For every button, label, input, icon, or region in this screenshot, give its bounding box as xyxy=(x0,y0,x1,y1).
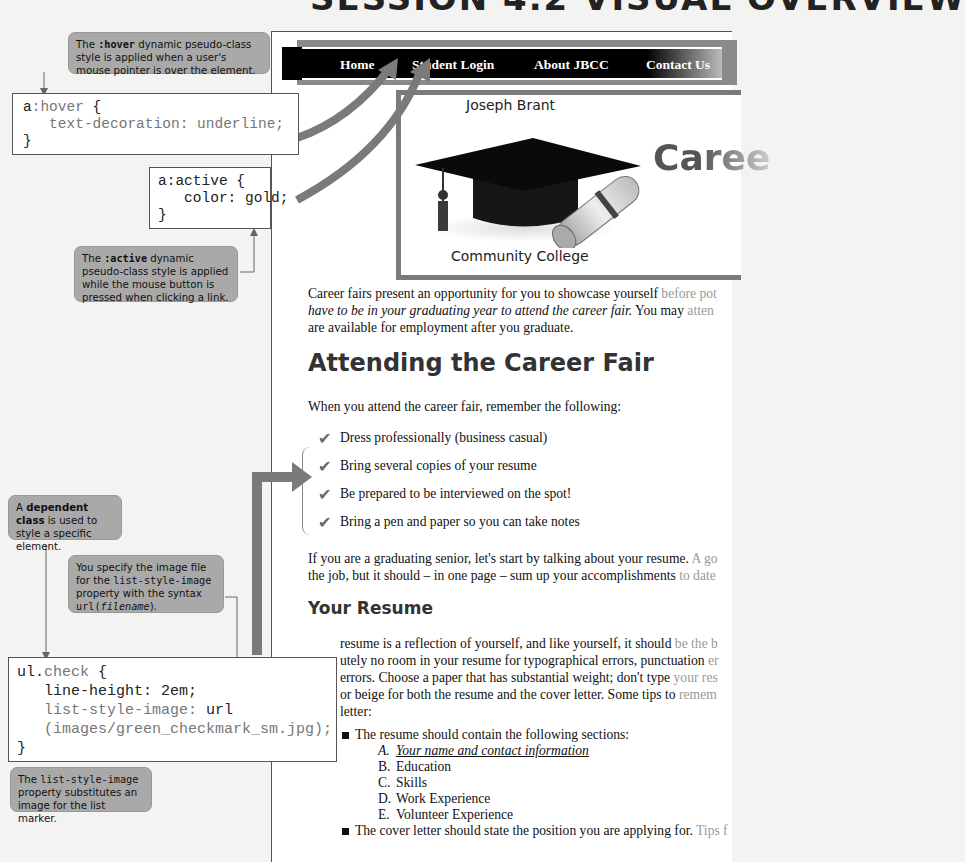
checkmark-icon: ✔ xyxy=(318,429,340,448)
bullet-item: The resume should contain the following … xyxy=(340,727,760,823)
sub-item: D.Work Experience xyxy=(378,791,760,807)
callout-dependent-class: A dependent class is used to style a spe… xyxy=(8,495,122,540)
checkmark-icon: ✔ xyxy=(318,457,340,476)
list-brace xyxy=(302,447,311,535)
heading-resume: Your Resume xyxy=(308,598,728,618)
remember-text: When you attend the career fair, remembe… xyxy=(308,398,728,415)
heading-attending: Attending the Career Fair xyxy=(308,349,728,377)
banner: Joseph Brant Community College Caree xyxy=(396,90,741,280)
nav-link-about[interactable]: About JBCC xyxy=(534,57,609,73)
nav-bar-inner: Home Student Login About JBCC Contact Us xyxy=(302,47,722,80)
senior-paragraph: If you are a graduating senior, let's st… xyxy=(308,550,728,584)
check-list: ✔Dress professionally (business casual) … xyxy=(312,424,732,536)
sub-item: E.Volunteer Experience xyxy=(378,807,760,823)
page-title: SESSION 4.2 VISUAL OVERVIEW xyxy=(310,0,965,18)
graduation-cap-icon xyxy=(413,123,643,248)
nav-link-contact[interactable]: Contact Us xyxy=(646,57,710,73)
banner-title: Caree xyxy=(653,137,770,178)
check-list-item: ✔Dress professionally (business casual) xyxy=(312,424,732,452)
check-list-item: ✔Bring several copies of your resume xyxy=(312,452,732,480)
code-block-hover: a:hover { text-decoration: underline; } xyxy=(12,93,299,155)
callout-url-syntax: You specify the image file for the list-… xyxy=(68,555,224,613)
check-list-item: ✔Be prepared to be interviewed on the sp… xyxy=(312,480,732,508)
nav-link-student-login[interactable]: Student Login xyxy=(412,57,494,73)
code-block-active: a:active { color: gold; } xyxy=(149,167,271,229)
banner-college-name-top: Joseph Brant xyxy=(466,97,555,113)
code-block-check: ul.check { line-height: 2em; list-style-… xyxy=(8,657,337,762)
sub-item: A.Your name and contact information xyxy=(378,743,760,759)
banner-college-name-bottom: Community College xyxy=(451,248,589,264)
intro-paragraph: Career fairs present an opportunity for … xyxy=(308,285,728,336)
callout-active: The :active dynamic pseudo-class style i… xyxy=(74,246,238,302)
nav-link-home[interactable]: Home xyxy=(340,57,375,73)
checkmark-icon: ✔ xyxy=(318,513,340,532)
check-list-item: ✔Bring a pen and paper so you can take n… xyxy=(312,508,732,536)
callout-hover: The :hover dynamic pseudo-class style is… xyxy=(68,32,270,74)
resume-bullets: The resume should contain the following … xyxy=(340,727,760,839)
callout-list-style-image: The list-style-image property substitute… xyxy=(10,767,152,812)
resume-paragraph: resume is a reflection of yourself, and … xyxy=(340,635,760,720)
sub-item: C.Skills xyxy=(378,775,760,791)
checkmark-icon: ✔ xyxy=(318,485,340,504)
bullet-item: The cover letter should state the positi… xyxy=(340,823,760,839)
sub-item: B.Education xyxy=(378,759,760,775)
